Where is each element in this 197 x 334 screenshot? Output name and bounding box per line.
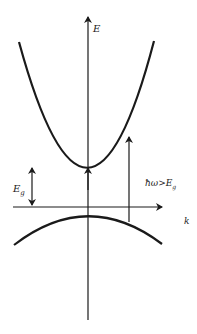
wavevector-axis-label: k	[184, 216, 189, 226]
band-gap-label: Eg	[12, 183, 25, 197]
energy-axis-label: E	[92, 23, 101, 34]
conduction-band-curve	[19, 41, 154, 168]
band-diagram: E k Eg ħω>Eg	[0, 0, 197, 334]
photon-energy-label: ħω>Eg	[145, 178, 176, 191]
